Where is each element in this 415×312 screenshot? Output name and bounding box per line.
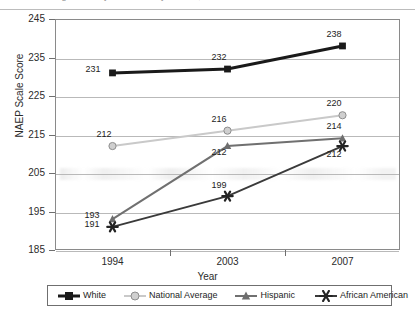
data-point-label: 216 xyxy=(212,114,227,124)
data-point-marker xyxy=(224,127,231,134)
legend-label: White xyxy=(83,291,106,300)
data-point-marker xyxy=(107,222,117,231)
data-point-marker xyxy=(109,142,116,149)
x-axis-title: Year xyxy=(0,271,415,282)
legend-marker-square-icon xyxy=(58,290,80,302)
data-point-label: 212 xyxy=(212,147,227,157)
series-hispanic xyxy=(109,134,347,222)
legend-label: African American xyxy=(340,291,408,300)
data-point-label: 238 xyxy=(327,29,342,39)
series-layer xyxy=(0,0,415,312)
data-point-marker xyxy=(224,66,231,73)
legend-item-hispanic[interactable]: Hispanic xyxy=(235,290,295,302)
series-line xyxy=(113,146,343,227)
data-point-label: 212 xyxy=(327,149,342,159)
legend-item-white[interactable]: White xyxy=(58,290,106,302)
legend-label: National Average xyxy=(149,291,217,300)
data-point-label: 212 xyxy=(97,129,112,139)
series-african-american xyxy=(107,142,347,232)
data-point-label: 191 xyxy=(85,219,100,229)
legend-item-national-average[interactable]: National Average xyxy=(124,290,217,302)
legend-marker-circle-icon xyxy=(124,290,146,302)
chart-legend: WhiteNational AverageHispanicAfrican Ame… xyxy=(47,285,392,306)
data-point-marker xyxy=(339,43,346,50)
chart-page: ……… reading scores by race/ethnicity ………… xyxy=(0,0,415,312)
data-point-label: 199 xyxy=(212,180,227,190)
data-point-label: 220 xyxy=(327,98,342,108)
data-point-marker xyxy=(339,112,346,119)
data-point-label: 232 xyxy=(212,52,227,62)
legend-label: Hispanic xyxy=(260,291,295,300)
series-line xyxy=(113,138,343,219)
data-point-label: 231 xyxy=(86,64,101,74)
legend-item-african-american[interactable]: African American xyxy=(315,290,408,302)
data-point-label: 214 xyxy=(327,121,342,131)
series-white xyxy=(109,43,346,77)
legend-marker-triangle-icon xyxy=(235,290,257,302)
legend-marker-asterisk-icon xyxy=(315,290,337,302)
data-point-marker xyxy=(222,192,232,201)
data-point-marker xyxy=(109,70,116,77)
